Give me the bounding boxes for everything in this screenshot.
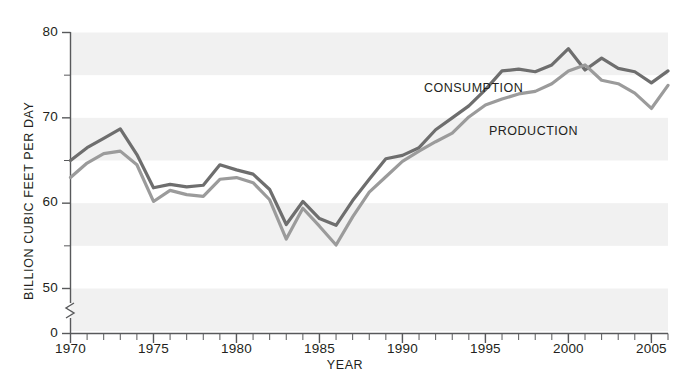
chart-canvas: [0, 0, 690, 383]
x-tick-label: 1995: [455, 341, 515, 356]
x-axis-title: YEAR: [0, 358, 690, 372]
y-tick-label: 50: [20, 280, 58, 295]
y-tick-label: 70: [20, 109, 58, 124]
series-label-consumption: CONSUMPTION: [424, 81, 523, 95]
x-tick-label: 1970: [41, 341, 101, 356]
x-tick-label: 1975: [123, 341, 183, 356]
x-tick-label: 2005: [621, 341, 681, 356]
y-tick-label: 60: [20, 194, 58, 209]
y-tick-label: 0: [20, 325, 58, 340]
x-tick-label: 1980: [206, 341, 266, 356]
series-label-production: PRODUCTION: [489, 124, 578, 138]
y-ticks: [62, 33, 71, 334]
x-tick-label: 1990: [372, 341, 432, 356]
figure: BILLION CUBIC FEET PER DAY YEAR CONSUMPT…: [0, 0, 690, 383]
band: [71, 118, 669, 161]
x-minor-ticks: [71, 334, 669, 341]
band: [71, 203, 669, 246]
x-tick-label: 2000: [538, 341, 598, 356]
y-tick-label: 80: [20, 24, 58, 39]
x-tick-label: 1985: [289, 341, 349, 356]
band: [71, 289, 669, 332]
